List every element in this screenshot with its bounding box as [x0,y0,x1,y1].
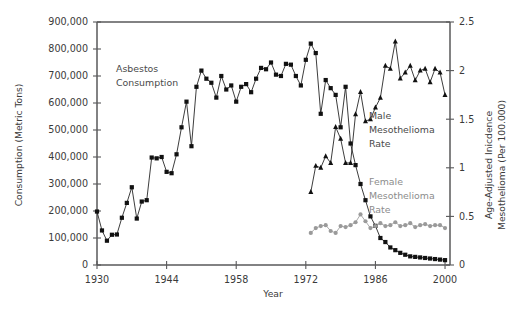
data-point-marker [358,212,362,216]
data-point-marker [308,189,313,194]
x-axis-tick-label: 1986 [363,274,387,285]
data-point-marker [309,231,313,235]
data-point-marker [373,224,377,228]
right-axis-tick-label: 0 [459,259,465,270]
left-axis-tick-label: 700,000 [48,70,88,81]
data-point-marker [304,58,308,62]
data-point-marker [348,223,352,227]
data-point-marker [95,209,99,213]
annotation-female-line2: Mesothelioma [369,190,435,201]
data-point-marker [264,67,268,71]
data-point-marker [279,74,283,78]
data-point-marker [388,245,392,249]
annotation-male-line2: Mesothelioma [369,124,435,135]
data-point-marker [443,226,447,230]
data-point-marker [135,216,139,220]
data-point-marker [165,170,169,174]
data-point-marker [408,221,412,225]
data-point-marker [443,92,448,97]
data-point-marker [224,87,228,91]
annotation-male-line3: Rate [369,138,391,149]
data-point-marker [150,155,154,159]
data-point-marker [378,221,382,225]
data-point-marker [418,223,422,227]
annotation-female-line3: Rate [369,204,391,215]
data-point-marker [184,100,188,104]
data-point-marker [244,82,248,86]
data-point-marker [433,257,437,261]
data-point-marker [199,69,203,73]
data-point-marker [174,152,178,156]
data-point-marker [100,228,104,232]
data-point-marker [294,74,298,78]
right-axis-tick-label: 2 [459,65,465,76]
left-axis-tick-label: 200,000 [48,205,88,216]
data-point-marker [155,156,159,160]
data-point-marker [353,220,357,224]
left-axis-tick-label: 600,000 [48,97,88,108]
left-axis-tick-label: 0 [82,259,88,270]
left-axis-tick-label: 800,000 [48,43,88,54]
data-point-marker [428,256,432,260]
data-point-marker [254,77,258,81]
data-point-marker [329,229,333,233]
data-point-marker [130,185,134,189]
data-point-marker [338,136,343,141]
data-point-marker [339,125,343,129]
data-point-marker [169,171,173,175]
asbestos-mesothelioma-chart: 0100,000200,000300,000400,000500,000600,… [0,0,527,317]
data-point-marker [388,66,393,71]
data-point-marker [179,125,183,129]
data-point-marker [398,251,402,255]
data-point-marker [438,258,442,262]
data-point-marker [383,240,387,244]
left-axis-tick-label: 500,000 [48,124,88,135]
data-point-marker [423,256,427,260]
left-axis-title: Consumption (Metric Tons) [13,84,24,207]
data-point-marker [110,233,114,237]
data-point-marker [343,160,348,165]
data-point-marker [249,90,253,94]
left-axis-tick-label: 400,000 [48,151,88,162]
data-point-marker [204,77,208,81]
data-point-marker [239,85,243,89]
data-point-marker [214,96,218,100]
data-point-marker [343,225,347,229]
data-point-marker [348,160,353,165]
data-point-marker [403,253,407,257]
right-axis-tick-label: 1.5 [459,114,474,125]
data-point-marker [229,83,233,87]
data-point-marker [259,66,263,70]
data-point-marker [413,77,418,82]
data-point-marker [194,85,198,89]
data-point-marker [120,216,124,220]
data-point-marker [334,93,338,97]
data-point-marker [324,223,328,227]
data-point-marker [319,112,323,116]
data-point-marker [368,226,372,230]
data-point-marker [428,224,432,228]
x-axis-tick-label: 2000 [433,274,457,285]
data-point-marker [373,105,378,110]
right-axis-tick-label: 2.5 [459,16,474,27]
data-point-marker [378,95,383,100]
data-point-marker [403,223,407,227]
data-point-marker [333,124,338,129]
data-point-marker [299,83,303,87]
x-axis-tick-label: 1930 [85,274,109,285]
data-point-marker [408,254,412,258]
data-point-marker [358,89,363,94]
data-point-marker [443,258,447,262]
data-point-marker [313,163,318,168]
data-point-marker [433,223,437,227]
annotation-asbestos-line2: Consumption [116,77,178,88]
data-point-marker [418,255,422,259]
data-point-marker [314,51,318,55]
left-axis-tick-label: 300,000 [48,178,88,189]
chart-figure: 0100,000200,000300,000400,000500,000600,… [0,0,527,317]
x-axis-tick-label: 1972 [294,274,318,285]
left-axis-tick-label: 100,000 [48,232,88,243]
data-point-marker [334,231,338,235]
x-axis-title: Year [262,288,283,299]
data-point-marker [329,86,333,90]
